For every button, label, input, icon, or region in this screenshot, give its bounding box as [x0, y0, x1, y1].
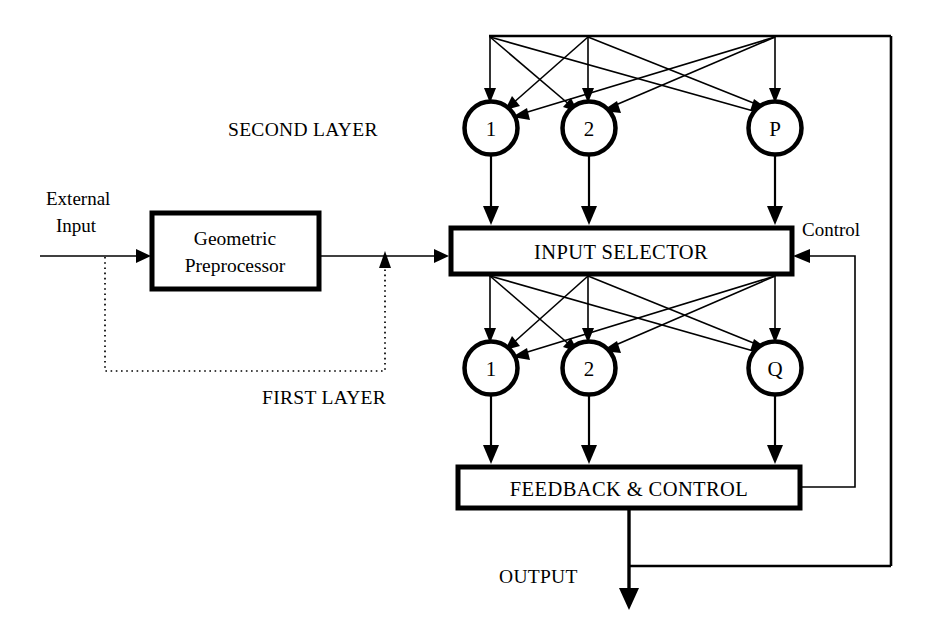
edge-bus775-to-s2 — [611, 37, 775, 107]
arrowhead-s2-selector — [581, 206, 597, 225]
arrowhead-s1-selector — [483, 206, 499, 225]
edge-sel775-to-f2 — [611, 276, 775, 347]
second-layer-node-p[interactable]: P — [749, 102, 802, 155]
geometric-preprocessor-label-line2: Preprocessor — [185, 255, 286, 276]
edge-bus588-to-sp — [588, 37, 756, 104]
first-layer-fanout — [484, 276, 781, 360]
second-layer-node-2[interactable]: 2 — [563, 102, 616, 155]
input-selector-label: INPUT SELECTOR — [534, 241, 708, 263]
arrowhead-fq-feedback — [767, 445, 783, 464]
second-layer-label: SECOND LAYER — [228, 119, 378, 140]
arrowhead-sp-selector — [767, 206, 783, 225]
first-layer-to-feedback — [483, 395, 783, 464]
output-path — [619, 508, 639, 610]
first-layer-node-q-label: Q — [767, 357, 782, 381]
second-layer-node-1[interactable]: 1 — [465, 102, 518, 155]
edge-bus490-to-sp — [490, 37, 757, 112]
feedback-control-block[interactable]: FEEDBACK & CONTROL — [458, 467, 800, 508]
geometric-preprocessor-box — [152, 213, 319, 289]
second-layer-to-input-selector — [483, 155, 783, 225]
arrowhead-control — [793, 249, 810, 263]
diagram-canvas: 1 2 P SECOND LAYER Ext — [0, 0, 932, 627]
first-layer-node-2-label: 2 — [584, 357, 595, 381]
first-layer-node-2[interactable]: 2 — [563, 342, 616, 395]
edge-bus490-to-s2 — [490, 37, 571, 106]
external-input-label-line2: Input — [56, 215, 97, 236]
edge-sel588-to-fq — [588, 276, 756, 344]
external-input-label-line1: External — [46, 188, 110, 209]
second-layer-node-2-label: 2 — [584, 117, 595, 141]
edge-sel490-to-f2 — [490, 276, 571, 346]
input-selector-block[interactable]: INPUT SELECTOR — [451, 228, 792, 274]
second-layer-fanout — [484, 37, 781, 120]
first-layer-node-q[interactable]: Q — [749, 342, 802, 395]
arrowhead-bypass — [379, 251, 391, 268]
geometric-preprocessor-block[interactable]: Geometric Preprocessor — [152, 213, 319, 289]
first-layer-label: FIRST LAYER — [262, 387, 386, 408]
arrowhead-f1-feedback — [483, 445, 499, 464]
feedback-control-label: FEEDBACK & CONTROL — [510, 478, 748, 500]
edge-sel490-to-fq — [490, 276, 757, 352]
arrowhead-output — [619, 588, 639, 610]
geometric-preprocessor-label-line1: Geometric — [194, 228, 277, 249]
first-layer-node-1[interactable]: 1 — [465, 342, 518, 395]
output-label: OUTPUT — [499, 566, 578, 587]
arrowhead-selector-input — [434, 249, 449, 263]
control-label: Control — [802, 219, 860, 240]
first-layer-node-1-label: 1 — [486, 357, 497, 381]
external-input-path — [40, 249, 151, 263]
arrowhead-f2-feedback — [581, 445, 597, 464]
control-loop-route — [801, 256, 855, 487]
second-layer-node-p-label: P — [769, 117, 781, 141]
edge-sel775-to-f1 — [521, 276, 775, 354]
edge-bus775-to-s1 — [521, 37, 775, 114]
diagram-svg: 1 2 P SECOND LAYER Ext — [0, 0, 932, 627]
second-layer-node-1-label: 1 — [486, 117, 497, 141]
arrowhead-external-input — [136, 249, 151, 263]
